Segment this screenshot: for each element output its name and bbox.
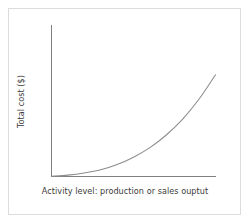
- figure-screenshot: Activity level: production or sales oupt…: [0, 0, 250, 224]
- total-cost-curve: [52, 75, 216, 176]
- y-axis-label-container: Total cost ($): [0, 0, 46, 200]
- y-axis-label: Total cost ($): [16, 37, 27, 167]
- x-axis-label: Activity level: production or sales oupt…: [20, 186, 230, 197]
